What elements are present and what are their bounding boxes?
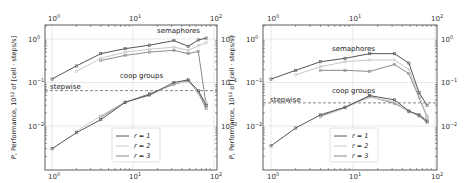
- y-axis-label: P, Performance, 1012 of [cell · steps/s]: [10, 36, 19, 159]
- x-tick-label-top: 102: [431, 13, 443, 23]
- y-tick-label-left: 10−2: [28, 121, 44, 131]
- right-chart-panel: 10010010110110210210010010−110−110−210−2…: [228, 13, 458, 183]
- y-tick-label-left: 100: [246, 34, 258, 44]
- performance-charts: 10010010110110210210010010−110−110−210−2…: [0, 0, 470, 183]
- series-line-semaphores-r2: [76, 43, 206, 72]
- x-tick-label-top: 102: [210, 13, 222, 23]
- stepwise-annotation: stepwise: [270, 96, 301, 104]
- semaphores-annotation: semaphores: [157, 27, 200, 35]
- legend-label-r3: r = 3: [134, 152, 150, 160]
- y-axis-label: P, Performance, 1012 of [cell · steps/s]: [228, 36, 237, 159]
- y-tick-label-right: 10−2: [441, 121, 457, 131]
- semaphores-annotation: semaphores: [332, 45, 375, 53]
- legend-label-r1: r = 1: [134, 132, 150, 140]
- y-tick-label-left: 10−2: [246, 121, 262, 131]
- series-line-coop-groups-r2: [76, 82, 206, 132]
- series-line-coop-groups-r3: [101, 81, 206, 117]
- x-tick-label-top: 101: [129, 13, 141, 23]
- left-chart-panel: 10010010110110210210010010−110−110−210−2…: [10, 13, 238, 183]
- x-tick-label-top: 101: [349, 13, 361, 23]
- series-line-coop-groups-r2: [320, 97, 427, 119]
- x-tick-label-bottom: 100: [48, 171, 60, 181]
- legend-label-r3: r = 3: [352, 152, 368, 160]
- legend: r = 1r = 2r = 3: [112, 128, 160, 162]
- stepwise-annotation: stepwise: [50, 83, 81, 91]
- legend-label-r1: r = 1: [352, 132, 368, 140]
- y-tick-label-right: 100: [441, 34, 453, 44]
- legend-label-r2: r = 2: [352, 142, 368, 150]
- legend-label-r2: r = 2: [134, 142, 150, 150]
- x-tick-label-bottom: 100: [267, 171, 279, 181]
- x-tick-label-bottom: 102: [210, 171, 222, 181]
- coop-groups-annotation: coop groups: [332, 87, 375, 95]
- y-tick-label-left: 100: [28, 34, 40, 44]
- y-tick-label-left: 10−1: [246, 77, 262, 87]
- x-tick-label-bottom: 101: [349, 171, 361, 181]
- y-tick-label-right: 10−1: [441, 77, 457, 87]
- coop-groups-annotation: coop groups: [120, 72, 163, 80]
- x-tick-label-bottom: 102: [431, 171, 443, 181]
- x-tick-label-top: 100: [267, 13, 279, 23]
- x-tick-label-top: 100: [48, 13, 60, 23]
- x-tick-label-bottom: 101: [129, 171, 141, 181]
- y-tick-label-left: 10−1: [28, 77, 44, 87]
- legend: r = 1r = 2r = 3: [330, 128, 378, 162]
